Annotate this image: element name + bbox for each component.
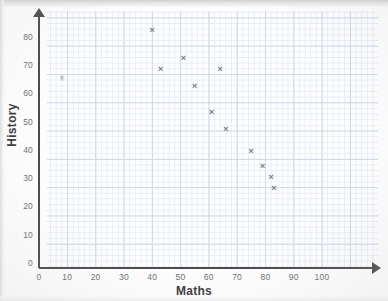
data-point-8 [258,162,267,171]
y-tick-label-30: 30 [0,173,33,183]
data-point-9 [267,173,276,182]
x-tick-label-30: 30 [119,272,129,282]
y-axis-line [38,14,40,268]
y-tick-label-70: 70 [0,60,33,70]
x-tick-label-10: 10 [62,272,72,282]
plot-area: 0102030405060708090100 01020304050607080… [0,0,388,301]
x-tick-label-100: 100 [315,272,330,282]
y-tick-label-0: 0 [0,258,33,268]
y-tick-label-80: 80 [0,32,33,42]
x-axis-title: Maths [0,284,388,298]
data-point-3 [190,82,199,91]
y-tick-row-0: 0 [0,268,33,278]
x-tick-label-20: 20 [91,272,101,282]
x-tick-label-40: 40 [147,272,157,282]
x-tick-label-0: 0 [37,272,42,282]
x-axis-line [39,267,376,269]
x-tick-label-80: 80 [260,272,270,282]
y-tick-row-80: 80 [0,42,33,52]
data-point-6 [221,125,230,134]
x-tick-label-60: 60 [204,272,214,282]
x-tick-label-90: 90 [289,272,299,282]
pencil-smudge-0 [59,75,66,83]
y-tick-row-70: 70 [0,70,33,80]
y-tick-row-10: 10 [0,240,33,250]
y-tick-row-40: 40 [0,155,33,165]
data-point-0 [148,26,157,35]
data-point-5 [216,65,225,74]
scatter-plot-figure: 0102030405060708090100 01020304050607080… [0,0,388,301]
data-point-4 [207,108,216,117]
y-tick-label-20: 20 [0,201,33,211]
data-point-10 [269,184,278,193]
data-point-1 [156,65,165,74]
y-axis-arrow-icon [33,8,45,17]
y-tick-row-30: 30 [0,183,33,193]
data-point-7 [247,147,256,156]
y-axis-title: History [5,95,19,155]
x-tick-label-50: 50 [176,272,186,282]
x-tick-label-70: 70 [232,272,242,282]
data-point-2 [179,54,188,63]
y-tick-label-10: 10 [0,230,33,240]
x-axis-arrow-icon [372,262,381,274]
y-tick-row-20: 20 [0,211,33,221]
